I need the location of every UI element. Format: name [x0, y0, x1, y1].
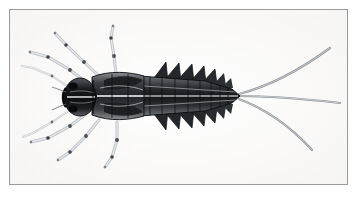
illustration-plate: [0, 0, 360, 197]
plate-frame: [9, 9, 348, 185]
